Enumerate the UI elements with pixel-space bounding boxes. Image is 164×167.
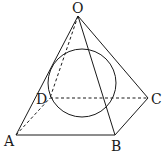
- edge-OD: [50, 16, 78, 98]
- label-A: A: [3, 133, 15, 149]
- edge-OC: [78, 16, 148, 98]
- pyramid-diagram: O A B C D: [0, 0, 164, 167]
- label-C: C: [151, 91, 162, 107]
- edge-OA: [16, 16, 78, 135]
- label-O: O: [72, 0, 83, 16]
- inscribed-sphere: [48, 49, 116, 117]
- label-D: D: [36, 91, 47, 107]
- label-B: B: [111, 138, 121, 154]
- edge-BC: [115, 98, 148, 135]
